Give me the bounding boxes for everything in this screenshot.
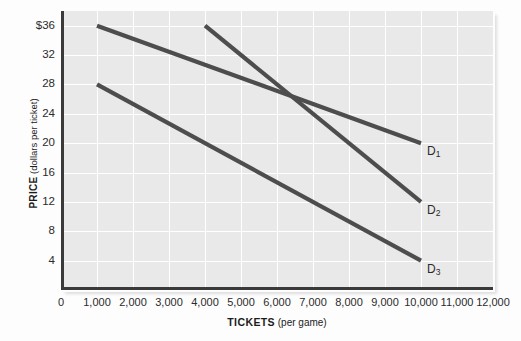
x-axis-tick-label: 1,000: [83, 297, 111, 308]
gridline-vertical: [421, 11, 422, 290]
gridline-vertical: [313, 11, 314, 290]
gridline-horizontal: [61, 173, 493, 174]
gridline-horizontal: [61, 55, 493, 56]
y-axis-tick-label: 28: [42, 78, 55, 90]
curve-label-subscript: 3: [436, 267, 441, 277]
x-axis-title-strong: TICKETS: [227, 316, 275, 328]
y-axis-tick-label: 20: [42, 137, 55, 149]
gridline-vertical: [97, 11, 98, 290]
x-axis-title: TICKETS (per game): [61, 316, 493, 328]
y-axis-tick-label: 4: [49, 255, 55, 267]
x-axis-tick-label: 0: [58, 297, 64, 308]
gridline-horizontal: [61, 231, 493, 232]
gridline-horizontal: [61, 84, 493, 85]
x-axis-tick-label: 5,000: [227, 297, 255, 308]
x-axis-tick-label: 12,000: [476, 297, 510, 308]
curve-label-subscript: 1: [436, 149, 441, 159]
gridline-vertical: [241, 11, 242, 290]
x-axis-tick-label: 4,000: [191, 297, 219, 308]
curve-label-d1: D1: [427, 145, 440, 157]
curve-label-letter: D: [427, 262, 436, 276]
gridline-vertical: [385, 11, 386, 290]
x-axis-tick-label: 7,000: [299, 297, 327, 308]
gridline-vertical: [277, 11, 278, 290]
x-axis-tick-label: 9,000: [371, 297, 399, 308]
y-axis-title-strong: PRICE: [28, 177, 39, 209]
curve-label-subscript: 2: [436, 208, 441, 218]
x-axis-tick-label: 6,000: [263, 297, 291, 308]
demand-curve-chart: 48121620242832$36 01,0002,0003,0004,0005…: [0, 0, 521, 341]
y-axis-title-rest: (dollars per ticket): [28, 98, 39, 176]
gridline-vertical: [133, 11, 134, 290]
y-axis-tick-label: 32: [42, 49, 55, 61]
x-axis-title-rest: (per game): [275, 317, 327, 328]
gridline-vertical: [349, 11, 350, 290]
y-axis-tick-label: 12: [42, 196, 55, 208]
y-axis-tick-label: $36: [36, 20, 55, 32]
curve-label-d2: D2: [427, 204, 440, 216]
x-axis-tick-label: 8,000: [335, 297, 363, 308]
gridline-vertical: [205, 11, 206, 290]
y-axis-tick-label: 8: [49, 225, 55, 237]
gridline-vertical: [169, 11, 170, 290]
x-axis-tick-label: 10,000: [404, 297, 438, 308]
curve-label-letter: D: [427, 203, 436, 217]
gridline-horizontal: [61, 26, 493, 27]
gridline-horizontal: [61, 114, 493, 115]
y-axis-tick-label: 16: [42, 167, 55, 179]
x-axis-tick-label: 2,000: [119, 297, 147, 308]
curve-label-d3: D3: [427, 263, 440, 275]
x-axis-tick-label: 3,000: [155, 297, 183, 308]
y-axis-tick-label: 24: [42, 108, 55, 120]
x-axis-tick-label: 11,000: [441, 297, 474, 308]
curve-label-letter: D: [427, 144, 436, 158]
gridline-vertical: [457, 11, 458, 290]
y-axis-title: PRICE (dollars per ticket): [28, 69, 39, 239]
